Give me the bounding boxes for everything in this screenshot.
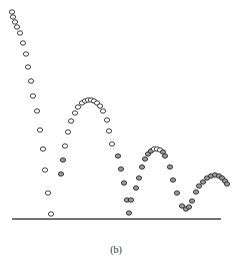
ball-dot xyxy=(37,128,42,132)
ball-dot xyxy=(68,119,73,123)
ball-dot xyxy=(14,25,19,29)
ball-dot xyxy=(17,31,22,35)
ball-dot xyxy=(42,168,47,172)
ball-dot xyxy=(126,211,131,215)
ball-dot xyxy=(30,94,35,98)
ball-dot xyxy=(109,142,114,146)
ball-positions xyxy=(9,10,229,216)
ball-dot xyxy=(106,129,111,133)
trajectory-bounce-1 xyxy=(58,98,131,215)
ball-dot xyxy=(115,154,120,158)
ball-dot xyxy=(62,144,67,148)
ball-dot xyxy=(133,186,138,190)
ball-dot xyxy=(100,109,105,113)
ball-dot xyxy=(167,165,172,169)
ball-dot xyxy=(20,41,25,45)
ball-dot xyxy=(60,158,65,162)
ball-dot xyxy=(48,212,53,216)
ball-dot xyxy=(40,147,45,151)
ball-dot xyxy=(104,118,109,122)
ball-dot xyxy=(189,199,194,203)
ball-dot xyxy=(65,130,70,134)
ball-dot xyxy=(72,111,77,115)
trajectory-bounce-2 xyxy=(128,147,188,211)
ball-dot xyxy=(196,184,201,188)
ball-dot xyxy=(58,172,63,176)
ball-dot xyxy=(9,10,14,14)
bouncing-ball-diagram xyxy=(0,0,232,264)
ball-dot xyxy=(200,180,205,184)
ball-dot xyxy=(118,167,123,171)
ball-dot xyxy=(193,190,198,194)
ball-dot xyxy=(128,198,133,202)
ball-dot xyxy=(139,165,144,169)
trajectory-bounce-3 xyxy=(186,173,229,209)
ball-dot xyxy=(162,154,167,158)
ball-dot xyxy=(10,15,15,19)
ball-dot xyxy=(170,178,175,182)
ball-dot xyxy=(174,191,179,195)
ball-dot xyxy=(75,105,80,109)
ball-dot xyxy=(142,157,147,161)
ball-dot xyxy=(136,176,141,180)
ball-dot xyxy=(97,104,102,108)
ball-dot xyxy=(45,191,50,195)
ball-dot xyxy=(23,52,28,56)
ball-dot xyxy=(34,109,39,113)
ball-dot xyxy=(12,20,17,24)
ball-dot xyxy=(224,182,229,186)
ball-dot xyxy=(121,181,126,185)
ball-dot xyxy=(186,205,191,209)
ball-dot xyxy=(28,79,33,83)
trajectory-initial-drop xyxy=(9,10,53,216)
figure-caption: (b) xyxy=(0,244,232,255)
ball-dot xyxy=(25,65,30,69)
